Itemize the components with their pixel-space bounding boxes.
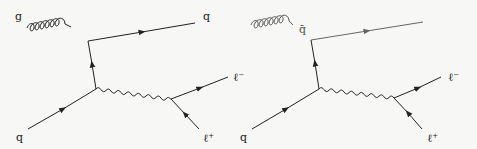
incoming-quark-line <box>28 109 63 129</box>
feynman-diagrams: g q q ℓ− ℓ+ q̄ q ℓ− ℓ+ <box>0 0 477 149</box>
antiquark-label: q̄ <box>299 23 306 36</box>
lepton-plus-label: ℓ+ <box>427 132 438 145</box>
diagram-right: q̄ q ℓ− ℓ+ <box>240 15 459 145</box>
gluon-label: g <box>15 10 22 23</box>
outgoing-line <box>311 31 367 40</box>
lepton-minus-label: ℓ− <box>448 71 459 84</box>
photon-line <box>96 88 171 100</box>
lepton-plus-line <box>185 114 199 129</box>
lepton-minus-line <box>171 88 200 99</box>
outgoing-quark-line <box>88 32 142 41</box>
lepton-minus-line <box>394 88 418 98</box>
outgoing-quark-label: q <box>203 10 210 23</box>
lepton-plus-label: ℓ+ <box>203 132 214 145</box>
gluon-line <box>251 15 293 28</box>
diagram-left: g q q ℓ− ℓ+ <box>15 10 244 145</box>
photon-line <box>319 88 394 99</box>
incoming-quark-label: q <box>240 131 247 144</box>
lepton-minus-label: ℓ− <box>233 71 244 84</box>
incoming-quark-line <box>252 109 286 129</box>
quark-propagator-line <box>92 64 96 89</box>
quark-propagator-line <box>315 63 319 89</box>
gluon-line <box>27 18 71 31</box>
lepton-plus-line <box>408 113 422 129</box>
incoming-quark-label: q <box>16 131 23 144</box>
